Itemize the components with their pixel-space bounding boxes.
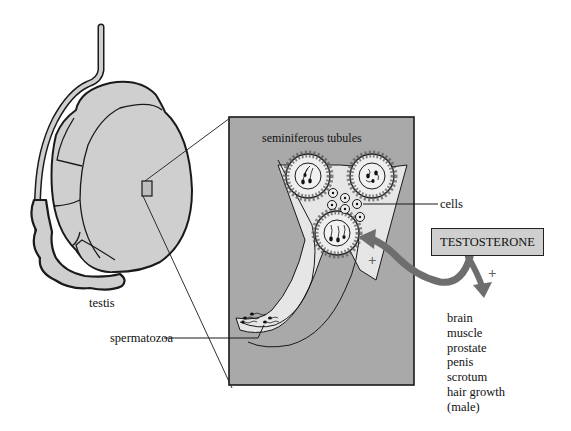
- target-organ: hair growth: [447, 385, 505, 400]
- testosterone-box: TESTOSTERONE: [431, 228, 544, 256]
- testosterone-label: TESTOSTERONE: [440, 235, 535, 250]
- label-testis: testis: [89, 296, 115, 310]
- label-spermatozoa: spermatozoa: [110, 331, 173, 345]
- target-organ: penis: [447, 355, 505, 370]
- testosterone-arrow-to-targets: [468, 257, 482, 286]
- plus-sign-targets: +: [488, 266, 497, 280]
- target-organ: prostate: [447, 341, 505, 356]
- label-cells: cells: [440, 197, 463, 211]
- target-organ: muscle: [447, 326, 505, 341]
- label-seminiferous-tubules: seminiferous tubules: [262, 131, 362, 145]
- target-organs-list: brain muscle prostate penis scrotum hair…: [447, 311, 505, 415]
- target-organ: scrotum: [447, 370, 505, 385]
- tubule-cross-section-right: [350, 154, 394, 198]
- magnified-region-marker: [142, 181, 152, 196]
- target-organ: brain: [447, 311, 505, 326]
- tubule-cross-section-left: [286, 154, 330, 198]
- tubule-cross-section-center: [315, 211, 359, 255]
- target-organ: (male): [447, 400, 505, 415]
- testis: [52, 82, 193, 272]
- plus-sign-tubule: +: [368, 253, 377, 267]
